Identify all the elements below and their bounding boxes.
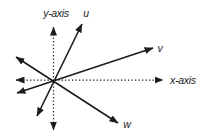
vector-diagram-canvas: y-axis x-axis u v w (0, 0, 201, 138)
vector-v-label: v (158, 42, 164, 54)
vector-diagram-figure: y-axis x-axis u v w (0, 0, 201, 138)
y-axis-label: y-axis (42, 7, 70, 19)
vector-w-line (16, 57, 118, 123)
vector-u-label: u (83, 7, 89, 19)
vector-w-label: w (123, 118, 132, 130)
x-axis-label: x-axis (169, 74, 197, 86)
vector-u-line (37, 24, 82, 116)
